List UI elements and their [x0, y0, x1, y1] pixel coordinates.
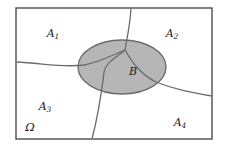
label-omega: Ω	[24, 120, 35, 134]
diagram-canvas: A1 A2 A3 A4 B Ω	[0, 0, 229, 147]
label-b: B	[128, 65, 137, 78]
event-b-ellipse	[78, 40, 166, 94]
set-partition-diagram: A1 A2 A3 A4 B Ω	[0, 0, 229, 147]
